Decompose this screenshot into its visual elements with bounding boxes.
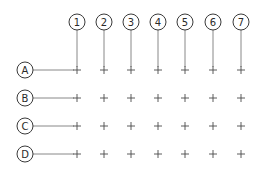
grid-intersection-cross-icon [181, 150, 189, 158]
row-marker-A: A [17, 62, 74, 78]
column-marker-1: 1 [69, 14, 85, 67]
column-marker-2: 2 [96, 14, 112, 67]
grid-intersection-cross-icon [209, 94, 217, 102]
row-marker-C: C [17, 118, 74, 134]
column-marker-3: 3 [123, 14, 139, 67]
grid-intersection-cross-icon [154, 122, 162, 130]
grid-intersection-cross-icon [209, 150, 217, 158]
column-marker-7: 7 [233, 14, 249, 67]
row-marker-B: B [17, 90, 74, 106]
grid-intersection-cross-icon [209, 122, 217, 130]
row-label: C [22, 121, 29, 132]
grid-intersection-cross-icon [73, 94, 81, 102]
column-marker-6: 6 [205, 14, 221, 67]
column-label: 5 [182, 17, 188, 28]
grid-intersection-cross-icon [237, 94, 245, 102]
grid-intersection-cross-icon [100, 94, 108, 102]
grid-intersection-cross-icon [100, 122, 108, 130]
grid-intersection-cross-icon [100, 66, 108, 74]
row-label: B [22, 93, 29, 104]
grid-intersection-cross-icon [181, 66, 189, 74]
grid-diagram: 1234567ABCD [0, 0, 264, 175]
grid-intersection-cross-icon [127, 150, 135, 158]
grid-intersection-cross-icon [100, 150, 108, 158]
grid-intersection-cross-icon [181, 94, 189, 102]
grid-intersection-cross-icon [154, 150, 162, 158]
grid-intersection-cross-icon [154, 66, 162, 74]
column-label: 2 [101, 17, 107, 28]
grid-intersection-cross-icon [237, 150, 245, 158]
grid-intersection-cross-icon [73, 66, 81, 74]
grid-intersection-cross-icon [237, 122, 245, 130]
row-label: D [21, 149, 29, 160]
column-label: 6 [210, 17, 216, 28]
grid-intersection-cross-icon [127, 94, 135, 102]
grid-intersection-cross-icon [209, 66, 217, 74]
column-label: 1 [74, 17, 80, 28]
grid-intersection-cross-icon [237, 66, 245, 74]
row-label: A [22, 65, 29, 76]
grid-intersection-cross-icon [127, 122, 135, 130]
grid-intersection-cross-icon [127, 66, 135, 74]
row-marker-D: D [17, 146, 74, 162]
grid-intersection-cross-icon [73, 150, 81, 158]
column-label: 3 [128, 17, 134, 28]
column-label: 4 [155, 17, 161, 28]
grid-intersection-cross-icon [73, 122, 81, 130]
grid-intersection-cross-icon [154, 94, 162, 102]
column-marker-5: 5 [177, 14, 193, 67]
grid-intersection-cross-icon [181, 122, 189, 130]
column-marker-4: 4 [150, 14, 166, 67]
column-label: 7 [238, 17, 244, 28]
